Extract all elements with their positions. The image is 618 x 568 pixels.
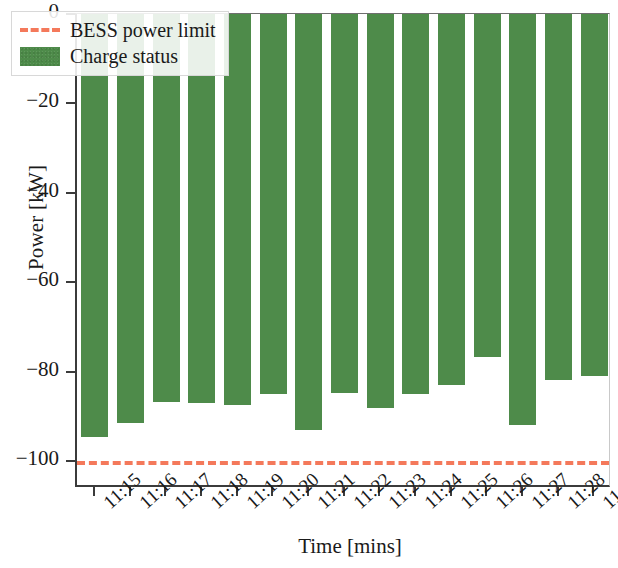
x-axis-tick-label: 11:28 — [563, 497, 578, 513]
x-axis-tick-label: 11:17 — [170, 497, 185, 513]
bess-power-limit-line — [77, 461, 609, 465]
x-axis-tick-label: 11:16 — [135, 497, 150, 513]
bar — [581, 14, 608, 376]
x-axis-tick — [93, 487, 95, 496]
x-axis-tick-label: 11:21 — [313, 497, 328, 513]
bar — [545, 14, 572, 380]
legend-label-bess-power-limit: BESS power limit — [70, 19, 216, 42]
bar — [331, 14, 358, 393]
bar — [81, 14, 108, 437]
x-axis-tick-label: 11:20 — [277, 497, 292, 513]
plot-area — [75, 13, 610, 487]
bar — [438, 14, 465, 385]
x-axis-tick-label: 11:23 — [384, 497, 399, 513]
bar — [260, 14, 287, 394]
chart-figure: Power [kW] 0−20−40−60−80−100 11:1511:161… — [0, 0, 618, 568]
bar — [402, 14, 429, 394]
y-axis-tick — [66, 281, 75, 283]
x-axis-title: Time [mins] — [200, 534, 500, 559]
y-axis-title: Power [kW] — [24, 88, 49, 348]
y-axis-tick — [66, 192, 75, 194]
bar — [509, 14, 536, 425]
x-axis-tick-label: 11:15 — [99, 497, 114, 513]
legend-item-charge-status: Charge status — [20, 43, 216, 69]
y-axis-tick-label: −80 — [0, 357, 59, 382]
filled-box-swatch-icon — [20, 47, 60, 66]
y-axis-tick-label: −60 — [0, 267, 59, 292]
chart-legend: BESS power limit Charge status — [11, 11, 229, 76]
x-axis-tick-label: 11:29 — [598, 497, 613, 513]
bar — [295, 14, 322, 430]
x-axis-tick-label: 11:19 — [242, 497, 257, 513]
x-axis-tick-label: 11:27 — [527, 497, 542, 513]
x-axis-tick-label: 11:22 — [349, 497, 364, 513]
legend-label-charge-status: Charge status — [70, 45, 178, 68]
x-axis-tick-label: 11:25 — [456, 497, 471, 513]
x-axis-tick-label: 11:24 — [420, 497, 435, 513]
bar — [367, 14, 394, 408]
legend-item-bess-power-limit: BESS power limit — [20, 17, 216, 43]
y-axis-tick — [66, 102, 75, 104]
x-axis-tick-label: 11:18 — [206, 497, 221, 513]
bar — [474, 14, 501, 357]
y-axis-tick — [66, 371, 75, 373]
y-axis-tick — [66, 460, 75, 462]
y-axis-tick-label: −100 — [0, 446, 59, 471]
y-axis-tick-label: −40 — [0, 178, 59, 203]
y-axis-tick-label: −20 — [0, 88, 59, 113]
x-axis-tick-label: 11:26 — [491, 497, 506, 513]
dashed-line-swatch-icon — [20, 28, 60, 32]
